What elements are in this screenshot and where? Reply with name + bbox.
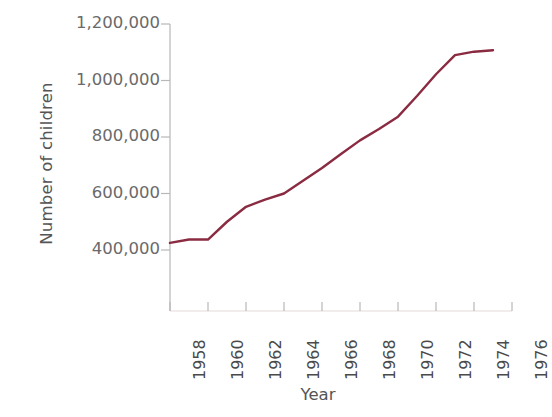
x-tick-label: 1964: [304, 316, 323, 380]
line-chart-figure: Number of children 400,000600,000800,000…: [0, 0, 552, 417]
x-axis-title-text: Year: [217, 385, 336, 404]
x-axis-title: Year: [0, 385, 552, 404]
x-axis-tick-labels: 1958196019621964196619681970197219741976: [0, 0, 552, 417]
x-tick-label: 1970: [418, 316, 437, 380]
x-tick-label: 1958: [190, 316, 209, 380]
x-tick-label: 1972: [456, 316, 475, 380]
x-tick-label: 1968: [380, 316, 399, 380]
x-tick-label: 1960: [228, 316, 247, 380]
x-tick-label: 1966: [342, 316, 361, 380]
x-tick-label: 1976: [532, 316, 551, 380]
x-tick-label: 1962: [266, 316, 285, 380]
x-tick-label: 1974: [494, 316, 513, 380]
